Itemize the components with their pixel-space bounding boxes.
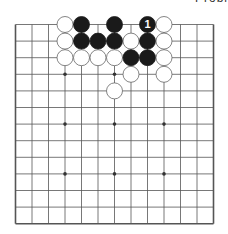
star-point [162, 122, 166, 126]
star-point [63, 172, 67, 176]
star-point [113, 172, 117, 176]
white-stone [57, 33, 73, 49]
black-stone [107, 17, 123, 33]
white-stone [156, 66, 172, 82]
white-stone [57, 17, 73, 33]
white-stone [57, 50, 73, 66]
black-stone [140, 33, 156, 49]
star-point [113, 122, 117, 126]
white-stone [107, 50, 123, 66]
star-point [113, 73, 117, 77]
go-board: 1 [0, 0, 228, 234]
star-point [162, 172, 166, 176]
white-stone [74, 50, 90, 66]
white-stone [156, 50, 172, 66]
white-stone [107, 83, 123, 99]
white-stone [123, 66, 139, 82]
white-stone [123, 33, 139, 49]
black-stone [90, 33, 106, 49]
white-stone [90, 50, 106, 66]
black-stone [140, 50, 156, 66]
black-stone [107, 33, 123, 49]
star-point [63, 73, 67, 77]
black-stone [74, 17, 90, 33]
black-stone [74, 33, 90, 49]
star-point [63, 122, 67, 126]
white-stone [156, 33, 172, 49]
move-number-label: 1 [144, 18, 150, 30]
black-stone [123, 50, 139, 66]
white-stone [156, 17, 172, 33]
